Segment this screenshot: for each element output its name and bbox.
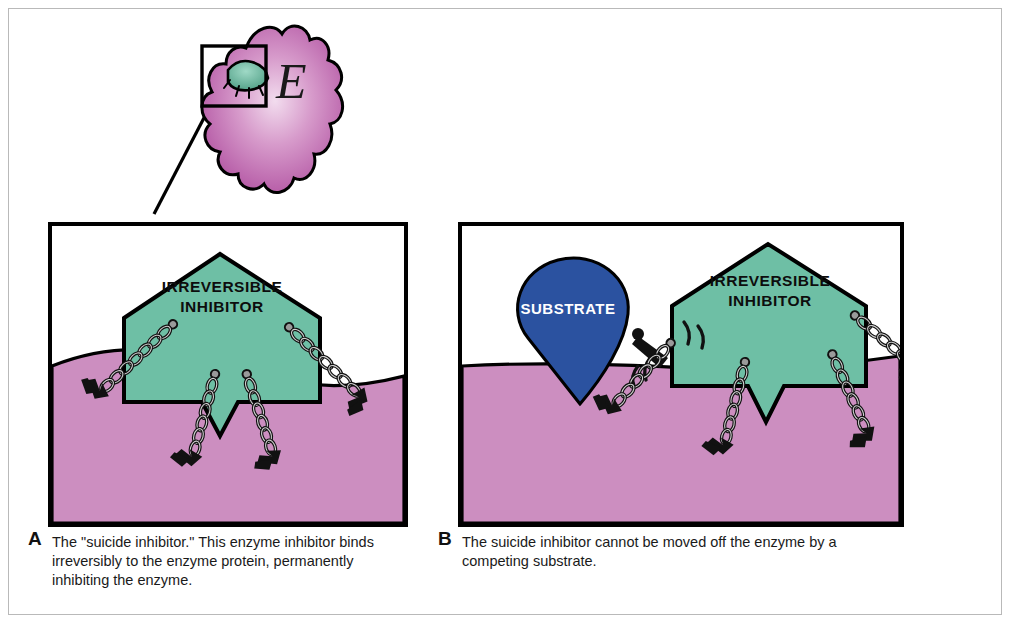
panel-b-letter: B xyxy=(438,528,452,550)
callout-leader-line xyxy=(154,114,206,214)
inset-bound-inhibitor xyxy=(228,61,268,90)
panel-b-caption: The suicide inhibitor cannot be moved of… xyxy=(462,533,862,571)
enzyme-blob xyxy=(202,26,343,193)
inhibitor-label-line1: IRREVERSIBLE xyxy=(162,278,283,295)
panel-a-letter: A xyxy=(28,528,42,550)
enzyme-letter: E xyxy=(275,53,307,109)
panel-b: SUBSTRATE IRREVERSIBLE INHIBITOR xyxy=(458,222,904,527)
inhibitor-label-line2: INHIBITOR xyxy=(180,298,263,315)
panel-a: IRREVERSIBLE INHIBITOR xyxy=(48,222,408,527)
enzyme-overview-inset: E xyxy=(150,18,410,218)
panel-a-caption: The "suicide inhibitor." This enzyme inh… xyxy=(52,533,412,590)
inhibitor-label-line1: IRREVERSIBLE xyxy=(710,272,831,289)
substrate-label: SUBSTRATE xyxy=(520,300,615,317)
figure-root: E IRREVERSIBLE INHIBI xyxy=(0,0,1010,623)
inhibitor-label-line2: INHIBITOR xyxy=(728,292,811,309)
